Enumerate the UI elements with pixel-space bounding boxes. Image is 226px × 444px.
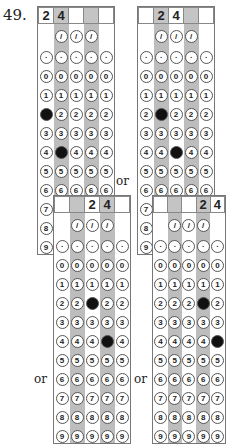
bubble[interactable]: 8 [211, 411, 224, 424]
bubble[interactable]: 5 [70, 165, 83, 178]
bubble[interactable]: 9 [71, 430, 84, 443]
bubble[interactable]: 5 [155, 165, 168, 178]
bubble[interactable]: 9 [211, 430, 224, 443]
bubble[interactable]: 5 [170, 165, 183, 178]
bubble[interactable]: 3 [170, 127, 183, 140]
bubble[interactable]: 8 [140, 222, 153, 235]
filled-bubble[interactable]: 2 [155, 108, 168, 121]
bubble[interactable]: . [211, 240, 224, 253]
bubble[interactable]: 1 [168, 278, 181, 291]
bubble[interactable]: 3 [211, 316, 224, 329]
bubble[interactable]: 0 [182, 259, 195, 272]
bubble[interactable]: 0 [211, 259, 224, 272]
bubble[interactable]: . [182, 240, 195, 253]
bubble[interactable]: 4 [154, 335, 167, 348]
bubble[interactable]: . [155, 51, 168, 64]
bubble[interactable]: 3 [86, 316, 99, 329]
bubble[interactable]: 1 [100, 89, 113, 102]
bubble[interactable]: 4 [70, 146, 83, 159]
bubble[interactable]: 3 [85, 127, 98, 140]
bubble[interactable]: 6 [116, 373, 129, 386]
answer-box[interactable]: 2 [154, 8, 169, 24]
bubble[interactable]: 1 [86, 278, 99, 291]
bubble[interactable]: 4 [155, 146, 168, 159]
bubble[interactable]: 6 [86, 373, 99, 386]
bubble[interactable]: 7 [86, 392, 99, 405]
bubble[interactable]: 0 [40, 70, 53, 83]
answer-box[interactable]: 4 [210, 197, 224, 213]
bubble[interactable]: 8 [154, 411, 167, 424]
bubble[interactable]: 5 [154, 354, 167, 367]
filled-bubble[interactable]: 2 [86, 297, 99, 310]
bubble[interactable]: / [185, 30, 198, 43]
bubble[interactable]: 0 [71, 259, 84, 272]
bubble[interactable]: / [71, 219, 84, 232]
bubble[interactable]: 3 [40, 127, 53, 140]
bubble[interactable]: 5 [140, 165, 153, 178]
bubble[interactable]: 1 [185, 89, 198, 102]
bubble[interactable]: / [55, 30, 68, 43]
bubble[interactable]: 2 [56, 297, 69, 310]
bubble[interactable]: 0 [101, 259, 114, 272]
bubble[interactable]: . [140, 51, 153, 64]
bubble[interactable]: . [40, 51, 53, 64]
bubble[interactable]: 8 [40, 222, 53, 235]
bubble[interactable]: 0 [85, 70, 98, 83]
bubble[interactable]: 3 [155, 127, 168, 140]
bubble[interactable]: 0 [55, 70, 68, 83]
bubble[interactable]: 5 [200, 165, 213, 178]
bubble[interactable]: 1 [200, 89, 213, 102]
filled-bubble[interactable]: 2 [197, 297, 210, 310]
bubble[interactable]: 3 [55, 127, 68, 140]
bubble[interactable]: 5 [185, 165, 198, 178]
bubble[interactable]: 2 [71, 297, 84, 310]
bubble[interactable]: 1 [155, 89, 168, 102]
answer-box[interactable]: 2 [85, 197, 100, 213]
bubble[interactable]: / [70, 30, 83, 43]
bubble[interactable]: 8 [197, 411, 210, 424]
bubble[interactable]: 5 [211, 354, 224, 367]
bubble[interactable]: . [168, 240, 181, 253]
bubble[interactable]: 7 [197, 392, 210, 405]
bubble[interactable]: 5 [85, 165, 98, 178]
bubble[interactable]: . [185, 51, 198, 64]
answer-box[interactable]: 2 [196, 197, 210, 213]
bubble[interactable]: 3 [140, 127, 153, 140]
bubble[interactable]: 6 [211, 373, 224, 386]
bubble[interactable]: 2 [211, 297, 224, 310]
bubble[interactable]: 1 [55, 89, 68, 102]
bubble[interactable]: 0 [170, 70, 183, 83]
bubble[interactable]: 6 [56, 373, 69, 386]
bubble[interactable]: 0 [86, 259, 99, 272]
bubble[interactable]: . [154, 240, 167, 253]
bubble[interactable]: 9 [197, 430, 210, 443]
bubble[interactable]: 1 [85, 89, 98, 102]
bubble[interactable]: / [168, 219, 181, 232]
filled-bubble[interactable]: 4 [170, 146, 183, 159]
answer-box[interactable] [69, 8, 84, 24]
bubble[interactable]: 8 [182, 411, 195, 424]
bubble[interactable]: 4 [182, 335, 195, 348]
bubble[interactable]: 0 [56, 259, 69, 272]
bubble[interactable]: 5 [168, 354, 181, 367]
bubble[interactable]: 9 [56, 430, 69, 443]
bubble[interactable]: 9 [168, 430, 181, 443]
bubble[interactable]: 2 [170, 108, 183, 121]
answer-box[interactable] [168, 197, 182, 213]
bubble[interactable]: 8 [101, 411, 114, 424]
bubble[interactable]: 3 [101, 316, 114, 329]
answer-box[interactable] [70, 197, 85, 213]
bubble[interactable]: / [170, 30, 183, 43]
bubble[interactable]: 1 [71, 278, 84, 291]
bubble[interactable]: 0 [140, 70, 153, 83]
bubble[interactable]: 2 [140, 108, 153, 121]
bubble[interactable]: 2 [182, 297, 195, 310]
answer-box[interactable] [154, 197, 168, 213]
bubble[interactable]: 2 [168, 297, 181, 310]
bubble[interactable]: 3 [197, 316, 210, 329]
bubble[interactable]: 1 [170, 89, 183, 102]
bubble[interactable]: 0 [197, 259, 210, 272]
bubble[interactable]: 4 [116, 335, 129, 348]
bubble[interactable]: 3 [56, 316, 69, 329]
bubble[interactable]: 8 [86, 411, 99, 424]
